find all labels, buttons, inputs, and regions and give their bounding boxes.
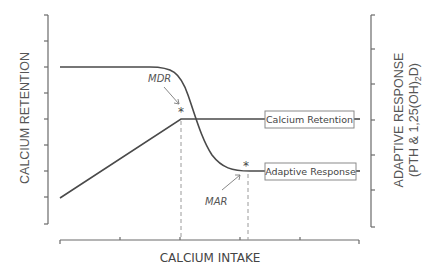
calcium-retention-label: Calcium Retention	[266, 114, 353, 125]
x-axis	[60, 237, 359, 244]
mdr-label: MDR	[148, 73, 171, 84]
mar-arrow	[222, 175, 240, 190]
calcium-retention-curve	[60, 119, 265, 198]
calcium-retention-label-box: Calcium Retention	[265, 111, 354, 128]
adaptive-response-label-box: Adaptive Response	[265, 163, 356, 180]
right-y-axis	[371, 15, 375, 227]
left-axis-title: CALCIUM RETENTION	[18, 52, 32, 184]
left-y-axis	[44, 15, 48, 224]
mar-star-icon: *	[243, 159, 249, 173]
x-axis-title: CALCIUM INTAKE	[160, 251, 261, 265]
adaptive-response-label: Adaptive Response	[265, 166, 356, 177]
right-axis-title-line2: (PTH & 1,25(OH)2D)	[407, 63, 423, 177]
mdr-arrow	[164, 87, 179, 104]
right-axis-title-line1: ADAPTIVE RESPONSE	[392, 53, 406, 188]
mar-label: MAR	[205, 196, 227, 207]
mdr-star-icon: *	[178, 105, 184, 119]
calcium-intake-diagram: Calcium Retention Adaptive Response MDR …	[0, 0, 433, 265]
